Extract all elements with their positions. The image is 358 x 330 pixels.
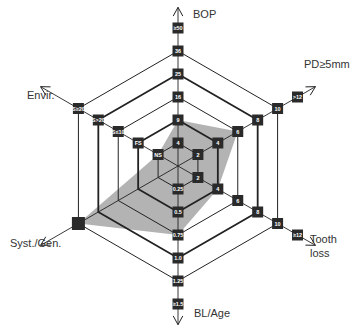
value-box-label: ≥1.5	[173, 301, 184, 307]
value-box-label: FS	[135, 140, 142, 146]
value-box-label: 9	[176, 117, 179, 123]
value-box-label: 1.25	[173, 278, 184, 284]
label-tooth-loss-2: loss	[310, 247, 330, 259]
value-box-label: 16	[175, 94, 181, 100]
value-box-label: 10	[275, 106, 281, 112]
value-box-label: 2	[196, 175, 199, 181]
label-tooth-loss-1: Tooth	[310, 233, 337, 245]
value-box-label: S>20	[92, 117, 105, 123]
label-bop: BOP	[193, 8, 216, 20]
value-box-label: 6	[236, 198, 239, 204]
value-box-label: 8	[256, 209, 259, 215]
value-box-label: S≤10	[112, 129, 125, 135]
value-box	[72, 217, 85, 230]
value-box-label: 25	[175, 71, 181, 77]
value-box-label: S≥20	[72, 106, 85, 112]
value-box-label: 0.75	[173, 232, 184, 238]
value-box-label: ≥50	[173, 25, 182, 31]
value-box-label: 6	[236, 129, 239, 135]
value-box-label: 2	[196, 152, 199, 158]
risk-diagram: 49162536≥50246810>12246810≥120.250.50.75…	[0, 0, 358, 330]
label-bl-age: BL/Age	[194, 307, 230, 319]
value-box-label: 0.5	[174, 209, 182, 215]
value-box-label: >12	[293, 94, 302, 100]
value-box-label: 8	[256, 117, 259, 123]
label-pd: PD≥5mm	[304, 58, 350, 70]
value-box-label: ≥12	[293, 232, 302, 238]
value-box-label: 36	[175, 48, 181, 54]
value-box-label: NS	[154, 152, 162, 158]
label-envir: Envir.	[27, 89, 55, 101]
value-box-label: 10	[275, 221, 281, 227]
label-syst-gen: Syst./Gen.	[10, 237, 61, 249]
value-box-label: 0.25	[173, 186, 184, 192]
value-box-label: 1.0	[174, 255, 182, 261]
